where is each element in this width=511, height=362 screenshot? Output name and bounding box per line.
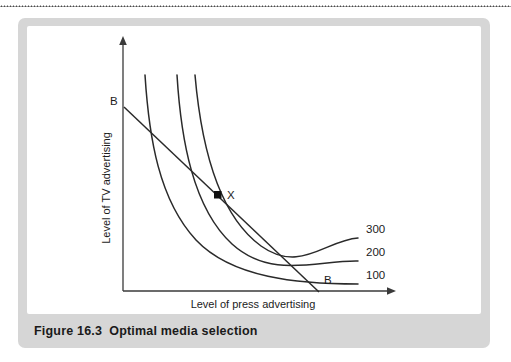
curve-label-100: 100 [366, 269, 385, 281]
y-axis-arrow-icon [119, 36, 127, 45]
x-axis-arrow-icon [387, 287, 396, 295]
optimal-media-selection-chart: X B B 300 200 100 Level of press adverti… [18, 18, 490, 318]
figure-page: X B B 300 200 100 Level of press adverti… [0, 0, 511, 362]
figure-caption-bar: Figure 16.3Optimal media selection [18, 318, 490, 348]
budget-label-bottom: B [324, 274, 332, 286]
budget-constraint-line [124, 107, 319, 292]
optimum-point-label: X [227, 189, 235, 201]
dotted-separator-rule [0, 4, 511, 7]
optimum-point-marker-icon [214, 191, 222, 199]
curve-label-300: 300 [366, 223, 385, 235]
figure-caption: Figure 16.3Optimal media selection [34, 324, 258, 338]
y-axis-title: Level of TV advertising [100, 132, 112, 244]
figure-caption-title: Optimal media selection [109, 324, 257, 338]
curve-label-200: 200 [366, 246, 385, 258]
indifference-curve-200 [177, 75, 358, 266]
figure-caption-number: Figure 16.3 [34, 324, 102, 338]
indifference-curves-group [145, 75, 358, 284]
indifference-curve-100 [145, 75, 358, 284]
x-axis-title: Level of press advertising [191, 298, 316, 310]
curve-value-labels-group: 300 200 100 [366, 223, 385, 281]
axes-group [119, 36, 396, 295]
budget-label-top: B [110, 95, 118, 107]
